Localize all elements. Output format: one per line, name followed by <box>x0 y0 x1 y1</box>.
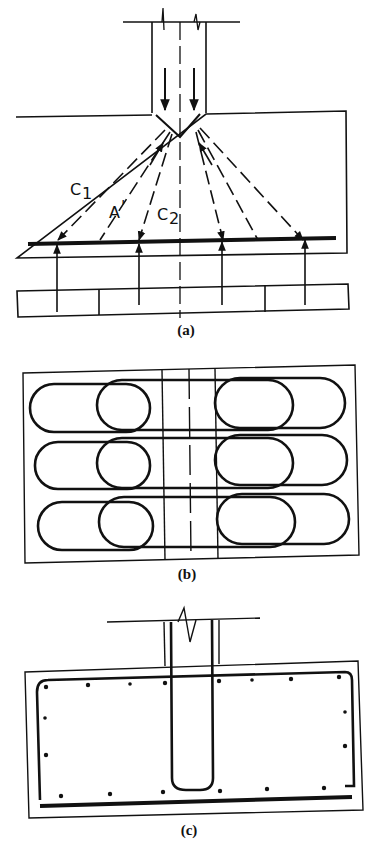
label-c2: C <box>157 205 168 224</box>
caption-c: (c) <box>169 822 209 839</box>
perimeter-rebar <box>37 672 354 800</box>
caption-b: (b) <box>167 566 207 583</box>
pile-cap-outline <box>16 111 347 258</box>
pile-reactions <box>57 240 305 312</box>
diagram-canvas: C 1 A ' C 2 <box>0 0 375 843</box>
column-top-line <box>107 618 260 622</box>
pile-cap-section-outline <box>25 661 363 818</box>
bottom-bar <box>40 797 352 806</box>
pile-row <box>17 284 349 317</box>
break-mark-icon <box>162 8 164 30</box>
panel-a <box>16 8 349 318</box>
svg-text:2: 2 <box>169 209 179 228</box>
rebar-dots <box>43 675 347 798</box>
panel-b <box>23 365 359 563</box>
label-c1: C <box>70 180 81 199</box>
panel-c <box>25 608 363 818</box>
svg-text:1: 1 <box>82 184 92 203</box>
starter-bars <box>171 620 213 790</box>
label-a: A <box>109 203 120 222</box>
svg-text:': ' <box>121 197 125 216</box>
tension-tie <box>28 238 336 244</box>
panel-a-labels: C 1 A ' C 2 <box>70 180 179 228</box>
caption-a: (a) <box>166 322 206 339</box>
break-mark-icon <box>178 608 196 642</box>
